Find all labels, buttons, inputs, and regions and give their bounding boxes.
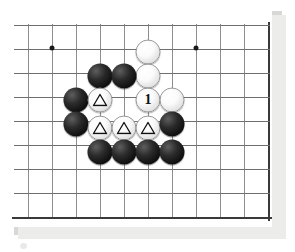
star-point-left [50,46,55,51]
black-stone[interactable] [112,140,137,165]
footer-dot-decoration [20,243,27,249]
black-stone[interactable] [88,140,113,165]
triangle-mark-icon [93,94,108,107]
white-stone-triangle[interactable] [112,116,137,141]
white-stone-triangle[interactable] [88,116,113,141]
go-diagram-root: 1 [0,0,295,252]
stone-move-number: 1 [145,93,152,108]
white-stone[interactable] [136,40,161,65]
white-stone[interactable] [160,88,185,113]
black-stone[interactable] [160,140,185,165]
board-edge-bottom [12,217,272,219]
white-stone[interactable] [136,64,161,89]
grid-line-horizontal [14,193,270,194]
white-stone-triangle[interactable] [136,116,161,141]
black-stone[interactable] [88,64,113,89]
star-point-right [194,46,199,51]
black-stone[interactable] [64,112,89,137]
triangle-mark-icon [93,122,108,135]
black-stone[interactable] [160,112,185,137]
black-stone[interactable] [64,88,89,113]
grid-line-horizontal [14,25,270,26]
white-stone-move-1[interactable]: 1 [136,88,161,113]
triangle-mark-icon [141,122,156,135]
white-stone-triangle[interactable] [88,88,113,113]
black-stone[interactable] [112,64,137,89]
go-board[interactable]: 1 [8,5,272,227]
black-stone[interactable] [136,140,161,165]
triangle-mark-icon [117,122,132,135]
grid-line-horizontal [14,169,270,170]
